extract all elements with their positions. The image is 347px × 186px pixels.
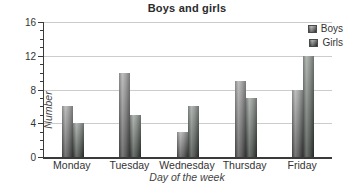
y-major-tick-8 (38, 90, 43, 91)
y-tick-label-0: 0 (10, 153, 36, 163)
x-category-label-monday: Monday (53, 159, 90, 171)
legend-label-boys: Boys (321, 23, 343, 34)
legend-label-girls: Girls (322, 37, 343, 48)
y-major-tick-4 (38, 123, 43, 124)
legend-item-boys: Boys (308, 23, 343, 34)
y-major-tick-16 (38, 22, 43, 23)
boys-legend-marker-icon (308, 25, 317, 33)
bar-boys-monday (62, 106, 73, 157)
bar-girls-wednesday (188, 106, 199, 157)
gridline-y-8 (44, 90, 332, 91)
y-minor-tick-5 (40, 115, 43, 116)
y-minor-tick-1 (40, 149, 43, 150)
bar-girls-friday (303, 56, 314, 157)
bar-boys-friday (292, 90, 303, 158)
bar-chart: Boys and girls Number 0481216 Day of the… (0, 0, 347, 186)
y-minor-tick-2 (40, 140, 43, 141)
y-major-tick-12 (38, 56, 43, 57)
x-category-label-wednesday: Wednesday (159, 159, 214, 171)
y-minor-tick-14 (40, 39, 43, 40)
x-category-label-tuesday: Tuesday (109, 159, 149, 171)
x-axis-label: Day of the week (43, 171, 331, 183)
legend-item-girls: Girls (308, 37, 343, 48)
y-minor-tick-6 (40, 106, 43, 107)
y-minor-tick-11 (40, 64, 43, 65)
x-category-label-thursday: Thursday (223, 159, 267, 171)
gridline-y-16 (44, 22, 332, 23)
y-major-tick-0 (38, 157, 43, 158)
y-minor-tick-13 (40, 47, 43, 48)
bar-boys-tuesday (119, 73, 130, 157)
bar-girls-monday (73, 123, 84, 157)
y-minor-tick-10 (40, 73, 43, 74)
bar-boys-thursday (235, 81, 246, 157)
y-tick-label-8: 8 (10, 86, 36, 96)
y-tick-label-4: 4 (10, 119, 36, 129)
y-minor-tick-3 (40, 132, 43, 133)
bar-boys-wednesday (177, 132, 188, 157)
y-minor-tick-7 (40, 98, 43, 99)
legend: Boys Girls (308, 23, 343, 48)
y-tick-label-16: 16 (10, 18, 36, 28)
y-minor-tick-15 (40, 30, 43, 31)
plot-area: Number 0481216 (43, 22, 332, 159)
girls-legend-marker-icon (309, 39, 318, 47)
y-tick-label-12: 12 (10, 52, 36, 62)
bar-girls-thursday (246, 98, 257, 157)
chart-title: Boys and girls (43, 2, 331, 14)
x-category-label-friday: Friday (288, 159, 317, 171)
bar-girls-tuesday (130, 115, 141, 157)
gridline-y-12 (44, 56, 332, 57)
y-minor-tick-9 (40, 81, 43, 82)
